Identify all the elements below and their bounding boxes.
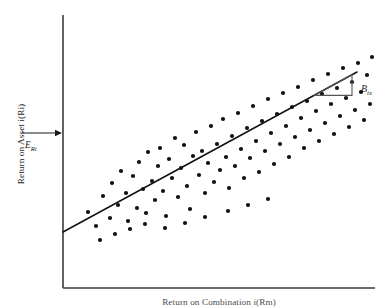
scatter-point bbox=[146, 150, 150, 154]
scatter-point bbox=[245, 126, 249, 130]
scatter-point bbox=[86, 210, 90, 214]
scatter-point bbox=[128, 227, 132, 231]
scatter-point bbox=[248, 156, 252, 160]
scatter-point bbox=[370, 55, 374, 59]
scatter-point bbox=[314, 109, 318, 113]
scatter-point bbox=[221, 117, 225, 121]
scatter-point bbox=[224, 155, 228, 159]
beta-label: Bix bbox=[361, 83, 372, 96]
scatter-point bbox=[197, 173, 201, 177]
expected-return-arrow bbox=[22, 130, 62, 136]
scatter-point bbox=[182, 143, 186, 147]
scatter-point bbox=[137, 160, 141, 164]
scatter-point bbox=[209, 124, 213, 128]
scatter-point bbox=[311, 78, 315, 82]
arrow-head bbox=[55, 130, 62, 136]
slope-triangle-path bbox=[314, 75, 352, 96]
scatter-point bbox=[119, 169, 123, 173]
scatter-point bbox=[101, 194, 105, 198]
scatter-point bbox=[236, 111, 240, 115]
scatter-point bbox=[341, 66, 345, 70]
scatter-point bbox=[353, 108, 357, 112]
axes bbox=[63, 15, 375, 288]
scatter-points bbox=[86, 55, 374, 242]
scatter-point bbox=[272, 162, 276, 166]
scatter-point bbox=[124, 191, 128, 195]
scatter-point bbox=[239, 147, 243, 151]
scatter-point bbox=[98, 238, 102, 242]
scatter-point bbox=[362, 118, 366, 122]
scatter-point bbox=[203, 215, 207, 219]
scatter-point bbox=[368, 102, 372, 106]
scatter-point bbox=[153, 198, 157, 202]
scatter-point bbox=[323, 121, 327, 125]
scatter-point bbox=[254, 139, 258, 143]
scatter-point bbox=[200, 149, 204, 153]
beta-subscript: ix bbox=[367, 89, 372, 96]
scatter-point bbox=[278, 142, 282, 146]
scatter-point bbox=[251, 104, 255, 108]
scatter-point bbox=[161, 189, 165, 193]
scatter-point bbox=[126, 219, 130, 223]
scatter-point bbox=[212, 180, 216, 184]
scatter-point bbox=[299, 116, 303, 120]
scatter-point bbox=[113, 232, 117, 236]
scatter-point bbox=[287, 155, 291, 159]
characteristic-line bbox=[63, 72, 357, 232]
scatter-point bbox=[167, 157, 171, 161]
scatter-point bbox=[144, 211, 148, 215]
scatter-point bbox=[356, 61, 360, 65]
scatter-point bbox=[183, 221, 187, 225]
scatter-point bbox=[194, 130, 198, 134]
scatter-point bbox=[296, 85, 300, 89]
scatter-point bbox=[230, 134, 234, 138]
scatter-point bbox=[158, 146, 162, 150]
slope-triangle bbox=[314, 75, 352, 96]
scatter-point bbox=[293, 135, 297, 139]
scatter-point bbox=[246, 203, 250, 207]
scatter-point bbox=[317, 139, 321, 143]
x-axis-label: Return on Combination i(Rm) bbox=[63, 297, 375, 307]
scatter-point bbox=[143, 222, 147, 226]
expected-return-label: ERi bbox=[25, 140, 37, 152]
scatter-point bbox=[215, 142, 219, 146]
scatter-point bbox=[242, 176, 246, 180]
scatter-point bbox=[108, 216, 112, 220]
scatter-point bbox=[338, 114, 342, 118]
regression-line bbox=[63, 72, 357, 232]
scatter-point bbox=[308, 128, 312, 132]
scatter-point bbox=[281, 91, 285, 95]
scatter-point bbox=[164, 214, 168, 218]
scatter-point bbox=[227, 186, 231, 190]
scatter-point bbox=[173, 136, 177, 140]
scatter-point bbox=[94, 224, 98, 228]
expected-return-subscript: Ri bbox=[31, 145, 37, 152]
scatter-point bbox=[218, 168, 222, 172]
scatter-point bbox=[191, 154, 195, 158]
scatter-point bbox=[329, 102, 333, 106]
scatter-point bbox=[302, 146, 306, 150]
scatter-point bbox=[185, 184, 189, 188]
scatter-point bbox=[226, 209, 230, 213]
scatter-point bbox=[266, 197, 270, 201]
scatter-point bbox=[188, 207, 192, 211]
scatter-plot-canvas bbox=[0, 0, 381, 307]
scatter-point bbox=[365, 73, 369, 77]
scatter-point bbox=[263, 149, 267, 153]
scatter-point bbox=[233, 164, 237, 168]
scatter-point bbox=[284, 124, 288, 128]
scatter-point bbox=[163, 226, 167, 230]
scatter-point bbox=[347, 125, 351, 129]
scatter-point bbox=[335, 86, 339, 90]
scatter-point bbox=[131, 174, 135, 178]
scatter-point bbox=[176, 195, 180, 199]
scatter-point bbox=[266, 97, 270, 101]
scatter-point bbox=[269, 131, 273, 135]
scatter-point bbox=[156, 164, 160, 168]
scatter-point bbox=[332, 132, 336, 136]
scatter-point bbox=[135, 206, 139, 210]
scatter-point bbox=[206, 161, 210, 165]
characteristic-line-figure: Return on Asset i(Ri) Return on Combinat… bbox=[0, 0, 381, 307]
scatter-point bbox=[203, 191, 207, 195]
scatter-point bbox=[170, 176, 174, 180]
